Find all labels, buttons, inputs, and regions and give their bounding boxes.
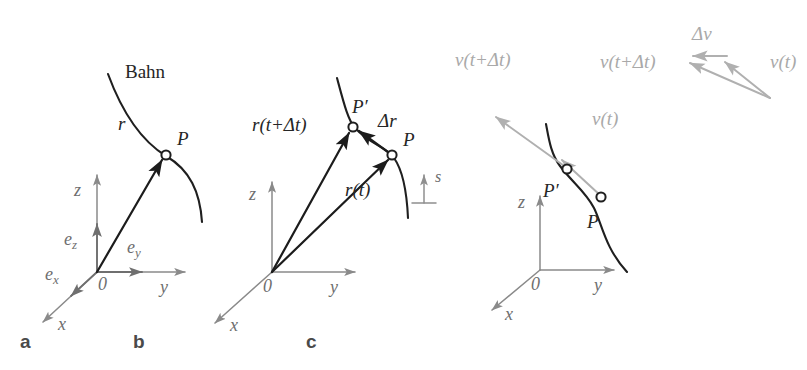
label-bahn-a: Bahn (125, 61, 166, 82)
label-vector-delta-r-b: Δr (377, 110, 397, 131)
point-p-b (387, 150, 396, 159)
panel-letter-a: a (20, 331, 31, 352)
label-axis-x-b: x (229, 315, 238, 335)
label-axis-y-a: y (158, 277, 168, 297)
label-axis-x-a: x (57, 314, 66, 334)
label-point-p-a: P (176, 128, 189, 149)
label-arclength-b: s (435, 168, 441, 185)
kinematics-figure: Bahn P r z y x 0 ez ey ex a P′ P r (0, 0, 807, 370)
label-triangle-v-t-plus-dt-c: v(t+Δt) (600, 51, 656, 73)
point-p-a (161, 150, 170, 159)
label-vector-r-t-plus-dt-b: r(t+Δt) (252, 114, 307, 136)
label-origin-b: 0 (263, 276, 272, 296)
label-point-p-c: P (586, 211, 599, 232)
label-triangle-v-t-c: v(t) (770, 51, 796, 73)
label-triangle-delta-v-c: Δv (691, 23, 712, 44)
point-p-prime-c (562, 164, 571, 173)
label-point-p-prime-b: P′ (351, 96, 369, 117)
label-vector-v-t-c: v(t) (592, 108, 618, 130)
label-axis-z-b: z (248, 184, 256, 204)
label-vector-r-a: r (118, 113, 126, 134)
label-origin-a: 0 (98, 274, 107, 294)
label-point-p-prime-c: P′ (542, 180, 560, 201)
label-origin-c: 0 (531, 274, 540, 294)
point-p-c (596, 192, 605, 201)
label-axis-z-a: z (73, 180, 81, 200)
label-axis-y-b: y (328, 277, 338, 297)
panel-letter-c: c (306, 331, 317, 352)
label-axis-z-c: z (517, 192, 525, 212)
panel-letter-b: b (133, 331, 145, 352)
label-axis-y-c: y (592, 275, 602, 295)
figure-canvas: Bahn P r z y x 0 ez ey ex a P′ P r (0, 0, 807, 370)
label-vector-v-t-plus-dt-c: v(t+Δt) (455, 49, 511, 71)
label-axis-x-c: x (504, 304, 513, 324)
label-point-p-b: P (402, 129, 415, 150)
point-p-prime-b (348, 122, 357, 131)
label-vector-r-t-b: r(t) (345, 179, 370, 201)
